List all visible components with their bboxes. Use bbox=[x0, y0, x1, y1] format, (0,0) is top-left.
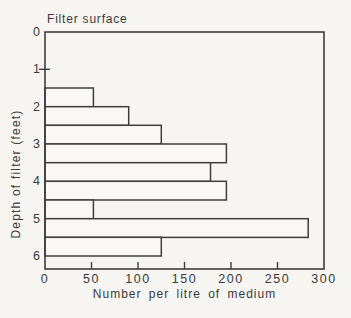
x-tick-label: 150 bbox=[172, 272, 197, 286]
x-tick-label: 250 bbox=[265, 272, 290, 286]
x-tick-label: 0 bbox=[41, 272, 49, 286]
x-axis-title: Number per litre of medium bbox=[45, 287, 324, 301]
bar bbox=[45, 88, 93, 107]
x-tick-label: 200 bbox=[218, 272, 243, 286]
filter-surface-label: Filter surface bbox=[47, 12, 128, 26]
y-tick-label: 0 bbox=[20, 25, 41, 39]
y-tick-label: 2 bbox=[20, 100, 41, 114]
bar bbox=[45, 181, 226, 200]
bar bbox=[45, 200, 93, 219]
plot-area bbox=[0, 0, 351, 318]
bar bbox=[45, 144, 226, 163]
x-tick-label: 50 bbox=[83, 272, 100, 286]
bar bbox=[45, 237, 161, 256]
y-tick-label: 5 bbox=[20, 212, 41, 226]
bar bbox=[45, 219, 308, 238]
x-tick-label: 300 bbox=[311, 272, 336, 286]
bar bbox=[45, 125, 161, 144]
y-tick-label: 3 bbox=[20, 137, 41, 151]
bar bbox=[45, 107, 129, 126]
y-tick-label: 6 bbox=[20, 249, 41, 263]
x-tick-label: 100 bbox=[125, 272, 150, 286]
bar-chart: Filter surface Number per litre of mediu… bbox=[0, 0, 351, 318]
y-tick-label: 4 bbox=[20, 174, 41, 188]
bar bbox=[45, 163, 211, 182]
y-tick-label: 1 bbox=[20, 62, 41, 76]
